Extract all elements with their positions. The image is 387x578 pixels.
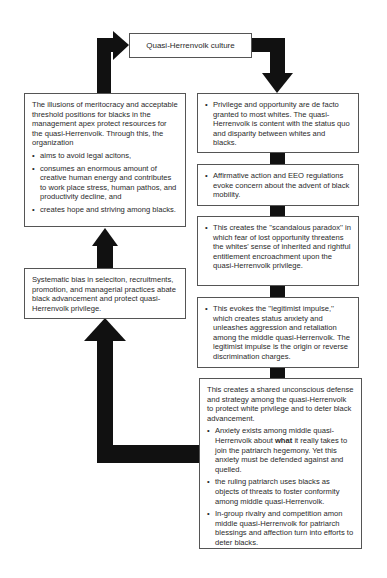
bullet-list: This evokes the ''legitimist impulse,'' … [205, 304, 351, 362]
node-left-illusions: The illusions of meritocracy and accepta… [24, 93, 186, 227]
node-intro: This creates a shared unconscious defens… [207, 385, 354, 423]
node-title: Quasi-Herrenvolk culture [146, 41, 234, 50]
node-right-privilege: Privilege and opportunity are de facto g… [197, 93, 359, 153]
list-item: creates hope and striving among blacks. [32, 205, 178, 215]
connector-r1-r2 [270, 152, 285, 164]
arrow-top-to-right [252, 38, 293, 93]
connector-r4-r5 [270, 367, 285, 378]
connector-r2-r3 [270, 205, 285, 216]
list-item: Anxiety exists among middle quasi-Herren… [207, 426, 354, 474]
node-text: Systematic bias in seleciton, recruitmen… [32, 275, 178, 313]
emphasis-what: what [275, 436, 292, 445]
node-quasi-herrenvolk-culture: Quasi-Herrenvolk culture [129, 33, 252, 58]
list-item: Affirmative action and EEO regulations e… [205, 171, 351, 200]
list-item: In-group rivalry and competition amon mi… [207, 509, 354, 547]
bullet-list: This creates the ''scandalous paradox'' … [205, 223, 351, 271]
node-right-legitimist-impulse: This evokes the ''legitimist impulse,'' … [197, 297, 359, 368]
node-right-scandalous-paradox: This creates the ''scandalous paradox'' … [197, 216, 359, 286]
list-item: aims to avoid legal acitons, [32, 151, 178, 161]
node-left-systematic-bias: Systematic bias in seleciton, recruitmen… [24, 268, 186, 319]
list-item: This evokes the ''legitimist impulse,'' … [205, 304, 351, 362]
list-item: Privilege and opportunity are de facto g… [205, 100, 351, 148]
list-item: the ruling patriarch uses blacks as obje… [207, 477, 354, 506]
bullet-list: Privilege and opportunity are de facto g… [205, 100, 351, 148]
bullet-list: aims to avoid legal acitons, consumes an… [32, 151, 178, 215]
connector-r3-r4 [270, 285, 285, 297]
arrow-left-to-top [97, 31, 129, 94]
arrow-right5-to-left2 [84, 318, 199, 463]
node-right-affirmative-action: Affirmative action and EEO regulations e… [197, 164, 359, 206]
list-item: consumes an enormous amount of creative … [32, 164, 178, 202]
bullet-list: Anxiety exists among middle quasi-Herren… [207, 426, 354, 547]
node-intro: The illusions of meritocracy and accepta… [32, 100, 178, 148]
list-item: This creates the ''scandalous paradox'' … [205, 223, 351, 271]
bullet-list: Affirmative action and EEO regulations e… [205, 171, 351, 200]
node-right-shared-defense: This creates a shared unconscious defens… [199, 378, 362, 549]
arrow-left2-to-left1 [92, 228, 118, 268]
